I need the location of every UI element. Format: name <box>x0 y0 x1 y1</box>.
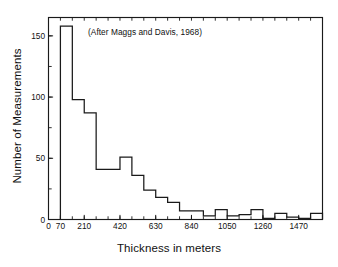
histogram-plot: 070210420630840105012601470050100150 <box>0 0 338 267</box>
x-tick-label: 210 <box>77 221 91 231</box>
x-axis-title: Thickness in meters <box>0 242 338 254</box>
y-tick-label: 50 <box>36 153 46 163</box>
plot-frame <box>49 18 323 220</box>
x-tick-label: 630 <box>149 221 163 231</box>
x-tick-label: 70 <box>56 221 66 231</box>
y-tick-label: 0 <box>40 215 45 225</box>
x-tick-label: 840 <box>185 221 199 231</box>
x-tick-label: 0 <box>46 221 51 231</box>
x-tick-label: 420 <box>113 221 127 231</box>
y-axis-title: Number of Measurements <box>11 16 23 216</box>
x-tick-label: 1260 <box>254 221 273 231</box>
x-tick-label: 1470 <box>289 221 308 231</box>
y-tick-label: 150 <box>31 31 45 41</box>
source-annotation: (After Maggs and Davis, 1968) <box>88 27 202 37</box>
histogram-figure: 070210420630840105012601470050100150 (Af… <box>0 0 338 267</box>
histogram-step-outline <box>60 26 322 219</box>
y-tick-label: 100 <box>31 92 45 102</box>
x-tick-label: 1050 <box>218 221 237 231</box>
